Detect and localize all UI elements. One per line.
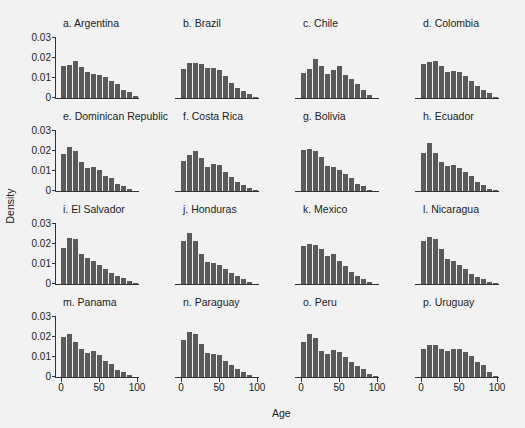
panel-title: c. Chile [303, 17, 338, 29]
panel-title: p. Uruguay [423, 296, 474, 308]
histogram-bar [217, 265, 222, 284]
panel-title: n. Paraguay [183, 296, 240, 308]
y-axis-line [55, 130, 56, 191]
histogram-bar [91, 167, 96, 191]
y-tick-label: 0.02 [21, 145, 51, 156]
histogram-bar [445, 351, 450, 377]
histogram-bars [181, 38, 259, 98]
histogram-bar [325, 256, 330, 284]
histogram-bar [73, 151, 78, 191]
histogram-bar [241, 91, 246, 98]
histogram-bar [463, 172, 468, 191]
histogram-bar [469, 356, 474, 377]
histogram-bar [199, 64, 204, 98]
histogram-bar [307, 334, 312, 377]
histogram-bar [343, 266, 348, 284]
panel-title: h. Ecuador [423, 110, 474, 122]
x-tick-label: 0 [418, 382, 424, 393]
histogram-bar [109, 81, 114, 98]
histogram-bar [349, 79, 354, 98]
histogram-bar [349, 362, 354, 377]
histogram-bar [211, 68, 216, 98]
chart-panel: f. Costa Rica [181, 110, 291, 202]
chart-panel: a. Argentina0.030.020.010 [61, 17, 171, 109]
y-tick-label: 0.03 [21, 311, 51, 322]
histogram-bar [235, 88, 240, 98]
histogram-bar [187, 233, 192, 284]
y-tick [52, 190, 55, 191]
chart-panel: e. Dominican Republic0.030.020.010 [61, 110, 171, 202]
chart-panel: k. Mexico [301, 203, 411, 295]
chart-panel: l. Nicaragua [421, 203, 525, 295]
x-tick-label: 0 [298, 382, 304, 393]
histogram-bar [109, 273, 114, 284]
plot-area [181, 223, 263, 285]
histogram-bar [433, 61, 438, 98]
histogram-bars [61, 317, 139, 377]
histogram-bar [301, 73, 306, 98]
y-tick-label: 0.03 [21, 32, 51, 43]
histogram-bar [67, 334, 72, 377]
histogram-bar [331, 254, 336, 284]
y-tick [52, 223, 55, 224]
panel-title: j. Honduras [183, 203, 237, 215]
panel-title: a. Argentina [63, 17, 119, 29]
histogram-bar [421, 64, 426, 98]
histogram-bar [187, 332, 192, 377]
histogram-bars [421, 131, 499, 191]
histogram-bar [193, 334, 198, 377]
histogram-bar [67, 65, 72, 98]
histogram-bar [211, 263, 216, 284]
y-tick [52, 316, 55, 317]
histogram-bar [325, 166, 330, 191]
histogram-bars [61, 38, 139, 98]
histogram-bar [193, 151, 198, 191]
chart-panel: m. Panama0.030.020.010050100 [61, 296, 171, 388]
histogram-bars [61, 224, 139, 284]
histogram-bar [481, 365, 486, 377]
plot-area: 050100 [301, 316, 383, 378]
histogram-bar [319, 66, 324, 98]
histogram-bar [433, 153, 438, 191]
histogram-bar [217, 70, 222, 98]
histogram-bar [85, 72, 90, 98]
plot-area [421, 223, 503, 285]
histogram-bar [223, 269, 228, 284]
histogram-bars [421, 317, 499, 377]
histogram-bar [181, 241, 186, 284]
histogram-bar [319, 249, 324, 284]
chart-panel: o. Peru050100 [301, 296, 411, 388]
chart-panel: h. Ecuador [421, 110, 525, 202]
y-tick [52, 97, 55, 98]
histogram-bar [73, 61, 78, 98]
y-tick [52, 376, 55, 377]
y-tick-label: 0.01 [21, 258, 51, 269]
histogram-bar [349, 272, 354, 284]
histogram-bar [451, 165, 456, 191]
histogram-bar [361, 90, 366, 98]
histogram-bar [343, 357, 348, 377]
y-axis-title: Density [4, 188, 16, 223]
x-axis-line [415, 191, 499, 192]
y-tick [52, 37, 55, 38]
histogram-bar [469, 176, 474, 191]
panel-title: k. Mexico [303, 203, 347, 215]
histogram-bar [103, 269, 108, 284]
histogram-bar [61, 337, 66, 377]
histogram-bar [229, 177, 234, 191]
histogram-bar [445, 166, 450, 191]
histogram-bar [439, 162, 444, 191]
histogram-bar [181, 69, 186, 98]
histogram-bar [355, 276, 360, 284]
histogram-bar [199, 344, 204, 377]
plot-area: 050100 [421, 316, 503, 378]
histogram-bar [187, 63, 192, 98]
histogram-bars [301, 131, 379, 191]
histogram-bar [229, 365, 234, 377]
plot-area [301, 223, 383, 285]
histogram-bar [451, 71, 456, 98]
panel-title: o. Peru [303, 296, 337, 308]
y-tick-label: 0 [21, 185, 51, 196]
histogram-bar [337, 170, 342, 191]
histogram-bar [73, 239, 78, 284]
